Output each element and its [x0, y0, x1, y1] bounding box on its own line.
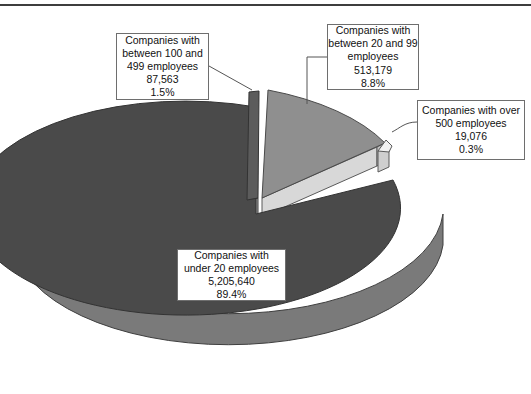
callout-under20-percent: 89.4%: [217, 288, 247, 301]
callout-companies-over-500: Companies with over 500 employees 19,076…: [417, 100, 525, 160]
leader-line-over500: [392, 122, 417, 132]
callout-companies-20-to-99: Companies with between 20 and 99 employe…: [327, 24, 419, 90]
pie-chart-graphic: [0, 0, 531, 394]
callout-20-99-value: 513,179: [354, 64, 392, 77]
callout-under20-line2: under 20 employees: [184, 262, 279, 275]
callout-20-99-line3: employees: [348, 50, 399, 63]
leader-line-100-499: [209, 66, 252, 90]
callout-20-99-percent: 8.8%: [361, 77, 385, 90]
callout-over500-line1: Companies with over: [422, 104, 520, 117]
callout-20-99-line2: between 20 and 99: [328, 37, 417, 50]
callout-20-99-line1: Companies with: [336, 24, 411, 37]
callout-over500-percent: 0.3%: [459, 143, 483, 156]
callout-companies-100-to-499: Companies with between 100 and 499 emplo…: [116, 33, 209, 100]
callout-100-499-line2: between 100 and: [122, 47, 203, 60]
callout-under20-line1: Companies with: [194, 249, 269, 262]
pie-chart-figure: Companies with between 100 and 499 emplo…: [0, 0, 531, 394]
callout-under20-value: 5,205,640: [208, 275, 255, 288]
callout-companies-under-20: Companies with under 20 employees 5,205,…: [177, 249, 286, 301]
callout-100-499-value: 87,563: [146, 73, 178, 86]
callout-100-499-percent: 1.5%: [151, 86, 175, 99]
slice-100-499-top: [247, 91, 259, 200]
callout-over500-value: 19,076: [455, 130, 487, 143]
callout-100-499-line3: 499 employees: [127, 60, 198, 73]
leader-line-20-99: [307, 57, 327, 104]
callout-100-499-line1: Companies with: [125, 34, 200, 47]
callout-over500-line2: 500 employees: [435, 117, 506, 130]
